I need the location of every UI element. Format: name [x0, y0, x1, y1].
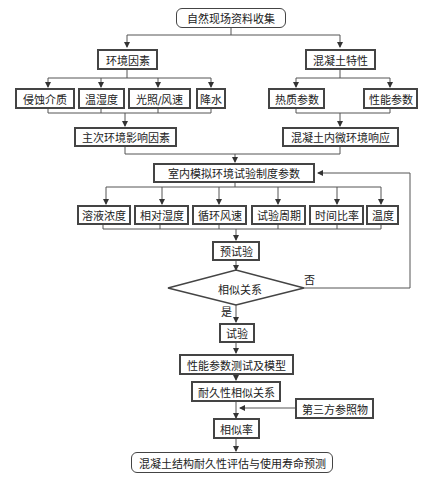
- test-node: 试验: [219, 323, 255, 343]
- durability-node: 耐久性相似关系: [191, 381, 281, 402]
- start-node: 自然现场资料收集: [176, 8, 286, 28]
- performance-node: 性能参数测试及模型: [179, 354, 294, 375]
- lab-item-node: 温度: [366, 205, 399, 225]
- lab-item-node: 溶液浓度: [77, 205, 131, 225]
- env-factors-node: 环境因素: [97, 49, 158, 70]
- decision-yes-label: 是: [221, 303, 232, 319]
- end-node: 混凝土结构耐久性评估与使用寿命预测: [131, 452, 333, 473]
- lab-item-node: 相对湿度: [134, 205, 189, 225]
- lab-item-node: 试验周期: [251, 205, 306, 225]
- lab-item-node: 循环风速: [192, 205, 247, 225]
- pretest-node: 预试验: [212, 241, 260, 261]
- concrete-result-node: 混凝土内微环境响应: [282, 127, 399, 147]
- similarity-rate-node: 相似率: [213, 418, 260, 439]
- lab-params-node: 室内模拟环境试验制度参数: [153, 163, 315, 183]
- decision-label: 相似关系: [218, 281, 262, 297]
- concrete-props-node: 混凝土特性: [305, 49, 376, 70]
- lab-item-node: 时间比率: [309, 205, 364, 225]
- left-item-node: 降水: [196, 88, 226, 109]
- env-result-node: 主次环境影响因素: [74, 127, 177, 147]
- left-item-node: 温湿度: [78, 88, 125, 109]
- left-item-node: 侵蚀介质: [15, 88, 75, 109]
- reference-node: 第三方参照物: [295, 398, 374, 419]
- right-item-node: 性能参数: [363, 88, 418, 109]
- left-item-node: 光照/风速: [128, 88, 191, 109]
- decision-no-label: 否: [304, 271, 315, 287]
- right-item-node: 热质参数: [268, 88, 325, 109]
